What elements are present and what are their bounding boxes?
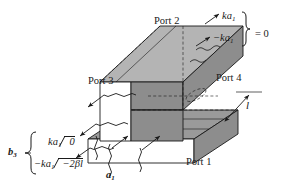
amplitude-top-upper-sub: 1 [232, 15, 236, 23]
port-2-label: Port 2 [154, 16, 179, 27]
amplitude-left-upper-angle: 0 [64, 136, 74, 148]
equals-zero-label: = 0 [255, 29, 269, 40]
amplitude-top-upper-coeff: ka [222, 10, 232, 21]
amplitude-top-lower: −ka1 [213, 33, 234, 45]
amplitude-left-upper-coeff: ka [48, 136, 58, 147]
amplitude-top-upper: ka1 [222, 11, 235, 23]
amplitude-left-lower: −ka1−2βl [34, 158, 83, 171]
input-a1-sub: 1 [111, 174, 115, 182]
amplitude-top-lower-coeff: −ka [213, 32, 230, 43]
amplitude-left-upper: ka10 [48, 136, 75, 149]
port-4-label: Port 4 [216, 73, 241, 84]
upper-guide-front-wall-lower [131, 110, 183, 141]
port-1-label: Port 1 [186, 157, 211, 168]
input-a1-label: a1 [106, 170, 115, 182]
upper-guide-front-open-face-port3 [100, 82, 131, 141]
length-label-l: l [246, 100, 249, 111]
amplitude-top-lower-sub: 1 [230, 37, 234, 45]
b3-label: b3 [8, 147, 17, 159]
b3-sub: 3 [13, 151, 17, 159]
amplitude-left-lower-coeff: −ka [34, 158, 51, 169]
port-3-label: Port 3 [88, 76, 113, 87]
amplitude-left-lower-angle: −2βl [58, 158, 83, 170]
directional-coupler-figure: Port 2 Port 3 Port 4 Port 1 ka1 −ka1 = 0… [0, 0, 281, 185]
